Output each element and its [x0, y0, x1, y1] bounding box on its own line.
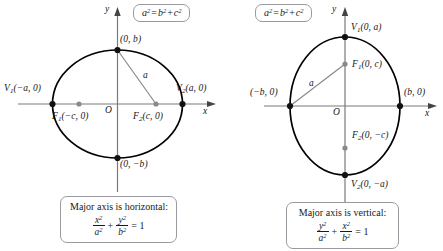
origin-label: O	[333, 108, 340, 118]
identity-box: a2=b2+c2	[255, 4, 312, 22]
y-axis-arrowhead	[114, 7, 120, 16]
y-axis-label: y	[332, 5, 336, 15]
origin-label: O	[105, 106, 112, 116]
label-segment-a: a	[309, 79, 314, 89]
caption-box-vertical: Major axis is vertical: y2 a2 + x2 b2 = …	[286, 202, 399, 249]
label-vertex-right: V2(a, 0)	[176, 84, 207, 95]
focus-top-dot	[342, 61, 347, 66]
x-axis-arrowhead	[428, 103, 437, 109]
identity-plus: +	[166, 7, 174, 18]
fraction-x2-a2: x2 a2	[93, 215, 105, 238]
caption-text: Major axis is vertical:	[296, 207, 389, 219]
identity-term2-exp: 2	[178, 7, 181, 14]
caption-equation: y2 a2 + x2 b2 = 1	[296, 221, 389, 244]
label-vertex-bottom: V2(0, −a)	[351, 180, 388, 191]
label-covertex-right: (b, 0)	[404, 88, 425, 98]
caption-box-horizontal: Major axis is horizontal: x2 a2 + y2 b2 …	[60, 196, 177, 243]
identity-box: a2=b2+c2	[133, 4, 190, 22]
fraction-x2-b2: x2 b2	[340, 221, 352, 244]
focus-right-dot	[153, 101, 158, 106]
label-vertex-top: V1(0, a)	[351, 23, 382, 34]
label-vertex-left: V1(−a, 0)	[4, 84, 41, 95]
x-axis-label: x	[203, 107, 207, 117]
fraction-y2-a2: y2 a2	[317, 221, 329, 244]
caption-equals-one: = 1	[131, 220, 144, 232]
vertex-bottom-dot	[342, 172, 348, 178]
label-focus-bottom: F2(0, −c)	[352, 131, 389, 142]
identity-equals: =	[150, 7, 158, 18]
caption-equals-one: = 1	[355, 226, 368, 238]
panel-vertical-major-axis: y x O a2=b2+c2 V1(0, a) V2(0, −a) (−b, 0…	[222, 0, 443, 251]
y-axis-label: y	[105, 5, 109, 15]
ellipse-figure: y x O a2=b2+c2 (0, b) (0, −b) V1(−a, 0) …	[0, 0, 443, 251]
caption-equation: x2 a2 + y2 b2 = 1	[70, 215, 167, 238]
vertex-left-dot	[49, 101, 55, 107]
vertex-top-dot	[342, 34, 348, 40]
label-covertex-bottom: (0, −b)	[120, 160, 148, 170]
caption-plus: +	[332, 226, 338, 238]
x-axis-label: x	[425, 109, 429, 119]
fraction-y2-b2: y2 b2	[116, 215, 128, 238]
y-axis-arrowhead	[342, 7, 348, 16]
focus-bottom-dot	[342, 145, 347, 150]
label-segment-a: a	[143, 71, 148, 81]
caption-plus: +	[108, 220, 114, 232]
identity-equals: =	[272, 7, 280, 18]
covertex-top-dot	[114, 47, 120, 53]
label-focus-left: F1(−c, 0)	[52, 112, 89, 123]
label-focus-top: F1(0, c)	[352, 60, 382, 71]
covertex-left-dot	[287, 103, 293, 109]
covertex-right-dot	[397, 103, 403, 109]
label-focus-right: F2(c, 0)	[133, 112, 163, 123]
caption-text: Major axis is horizontal:	[70, 201, 167, 213]
x-axis-arrowhead	[207, 101, 216, 107]
identity-term2-exp: 2	[300, 7, 303, 14]
identity-plus: +	[288, 7, 296, 18]
label-covertex-left: (−b, 0)	[250, 88, 278, 98]
panel-horizontal-major-axis: y x O a2=b2+c2 (0, b) (0, −b) V1(−a, 0) …	[0, 0, 222, 251]
label-covertex-top: (0, b)	[120, 35, 141, 45]
focus-left-dot	[76, 101, 81, 106]
vertex-right-dot	[179, 101, 185, 107]
